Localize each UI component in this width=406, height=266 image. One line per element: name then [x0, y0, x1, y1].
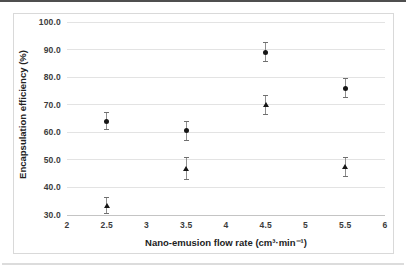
x-tick-label: 5 — [291, 220, 321, 230]
gridline — [67, 159, 385, 160]
y-tick-label: 80.0 — [19, 72, 61, 82]
y-tick-label: 100.0 — [19, 17, 61, 27]
error-bar-cap-bottom — [184, 140, 189, 141]
data-point-marker — [342, 164, 348, 169]
chart-screenshot: Encapsulation efficiency (%) Nano-emusio… — [0, 0, 406, 266]
error-bar-cap-bottom — [263, 61, 268, 62]
error-bar-cap-top — [343, 157, 348, 158]
y-tick-label: 70.0 — [19, 100, 61, 110]
data-point-marker — [183, 166, 189, 171]
x-tick-label: 5.5 — [330, 220, 360, 230]
x-tick-label: 4.5 — [251, 220, 281, 230]
y-tick-label: 40.0 — [19, 182, 61, 192]
error-bar-cap-bottom — [104, 213, 109, 214]
error-bar-cap-top — [263, 95, 268, 96]
x-axis-line — [67, 215, 385, 216]
error-bar-cap-bottom — [184, 179, 189, 180]
error-bar-cap-bottom — [104, 129, 109, 130]
error-bar-cap-top — [184, 157, 189, 158]
data-point-marker — [104, 119, 109, 124]
error-bar-cap-top — [104, 197, 109, 198]
window-top-edge — [0, 0, 406, 2]
y-tick-label: 30.0 — [19, 210, 61, 220]
error-bar-cap-bottom — [343, 97, 348, 98]
data-point-marker — [263, 102, 269, 107]
gridline — [67, 49, 385, 50]
error-bar-cap-bottom — [343, 176, 348, 177]
x-tick-label: 2.5 — [92, 220, 122, 230]
data-point-marker — [104, 203, 110, 208]
gridline — [67, 22, 385, 23]
x-tick-label: 6 — [370, 220, 400, 230]
data-point-marker — [343, 86, 348, 91]
error-bar-cap-top — [343, 78, 348, 79]
error-bar-cap-bottom — [263, 114, 268, 115]
x-axis-title: Nano-emusion flow rate (cm³·min⁻¹) — [76, 237, 376, 248]
y-tick-label: 60.0 — [19, 127, 61, 137]
x-tick-label: 3.5 — [171, 220, 201, 230]
error-bar-cap-top — [184, 121, 189, 122]
y-tick-label: 90.0 — [19, 45, 61, 55]
gridline — [67, 77, 385, 78]
gridline — [67, 104, 385, 105]
error-bar-cap-top — [263, 42, 268, 43]
error-bar-cap-top — [104, 112, 109, 113]
x-tick-label: 3 — [132, 220, 162, 230]
x-tick-label: 2 — [52, 220, 82, 230]
y-tick-label: 50.0 — [19, 155, 61, 165]
x-tick-label: 4 — [211, 220, 241, 230]
gridline — [67, 187, 385, 188]
window-bottom-edge — [2, 263, 404, 265]
gridline — [67, 132, 385, 133]
